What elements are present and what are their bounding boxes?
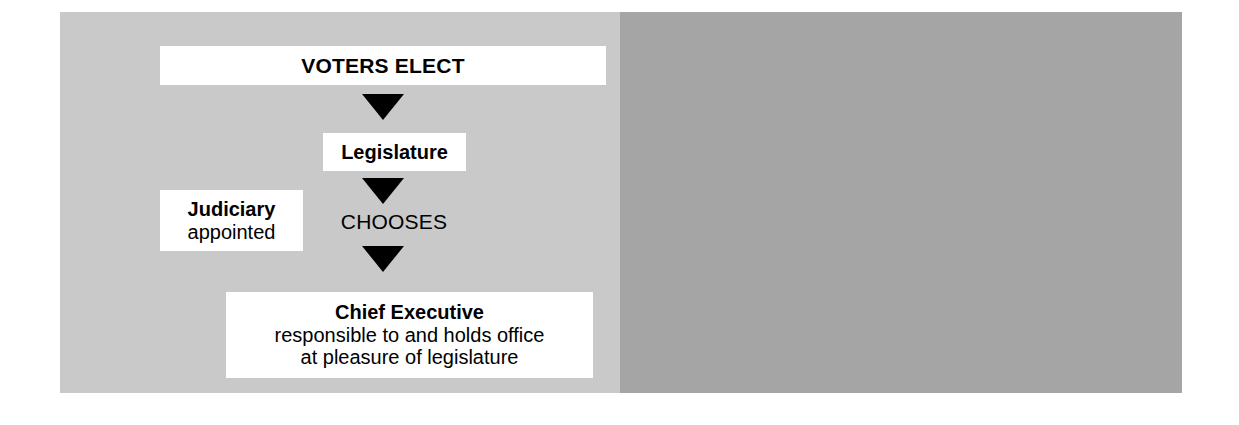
left-chief-executive-box: Chief Executive responsible to and holds… xyxy=(226,292,593,378)
left-legislature-label: Legislature xyxy=(341,141,448,163)
left-legislature-box: Legislature xyxy=(323,133,466,171)
parliamentary-system-panel: VOTERS ELECT Legislature Judiciary appoi… xyxy=(60,12,620,393)
left-chief-executive-line3: at pleasure of legislature xyxy=(301,346,519,368)
left-judiciary-box: Judiciary appointed xyxy=(160,190,303,251)
left-judiciary-label: Judiciary xyxy=(188,198,276,220)
down-arrow-icon-chooses-to-chief-executive xyxy=(362,246,404,272)
diagram-canvas: VOTERS ELECT Legislature Judiciary appoi… xyxy=(0,0,1239,425)
left-chief-executive-line2: responsible to and holds office xyxy=(275,324,545,346)
down-arrow-icon-voters-to-legislature xyxy=(362,94,404,120)
left-chief-executive-label: Chief Executive xyxy=(335,301,484,323)
down-arrow-icon-legislature-to-chooses xyxy=(362,178,404,204)
left-chooses-label: CHOOSES xyxy=(313,210,475,234)
left-voters-elect-box: VOTERS ELECT xyxy=(160,46,606,85)
left-voters-elect-label: VOTERS ELECT xyxy=(301,54,464,78)
presidential-system-panel: VOTERS ELECT Legislature Chief Executive… xyxy=(620,12,1182,393)
left-judiciary-sublabel: appointed xyxy=(188,221,276,243)
